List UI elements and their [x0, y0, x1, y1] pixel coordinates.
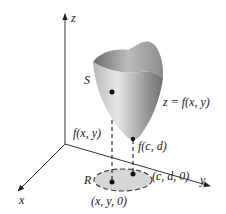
region-label: R — [83, 173, 92, 187]
surface-point-label: f(x, y) — [73, 126, 101, 140]
x-axis-label: x — [18, 193, 25, 207]
surface-diagram: z x y S z = f(x, y) R f(x, y) f(c, d) (x… — [0, 0, 226, 214]
minimum-label: f(c, d) — [138, 139, 167, 153]
z-axis-label: z — [70, 11, 76, 25]
region-r — [94, 169, 152, 191]
minimum-point — [131, 137, 135, 141]
surface-outer — [93, 62, 163, 140]
surface-s — [93, 42, 163, 140]
surface-equation-label: z = f(x, y) — [162, 95, 210, 109]
domain-point-cd-label: (c, d, 0) — [152, 169, 189, 183]
y-axis-label: y — [199, 173, 206, 187]
domain-point-cd — [131, 172, 136, 177]
x-axis — [18, 144, 65, 191]
surface-label: S — [84, 73, 90, 87]
surface-point — [110, 90, 115, 95]
domain-point-xy-label: (x, y, 0) — [91, 194, 127, 208]
domain-point-xy — [110, 180, 115, 185]
